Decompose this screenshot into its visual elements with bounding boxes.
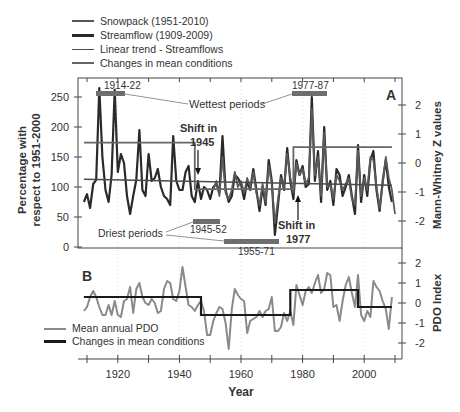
legend-panel-a: Snowpack (1951-2010) Streamflow (1909-20… xyxy=(72,14,233,70)
legend-item-streamflow: Streamflow (1909-2009) xyxy=(72,28,233,42)
y2-axis-title-b: PDO Index xyxy=(431,273,443,332)
shift-1977-label: Shift in xyxy=(278,219,316,231)
shift-1977-year: 1977 xyxy=(286,233,310,245)
wettest-connector xyxy=(262,94,292,104)
streamflow-line xyxy=(84,88,392,235)
y2-tick-label: 0 xyxy=(415,157,421,169)
legend-swatch xyxy=(44,328,66,330)
y-tick-label: 0 xyxy=(63,241,69,253)
y2-tick-label: -2 xyxy=(415,215,425,227)
legend-swatch xyxy=(72,34,94,37)
legend-label: Streamflow (1909-2009) xyxy=(100,28,213,42)
y-axis-title-line1: Percentage with xyxy=(16,126,28,214)
legend-label: Mean annual PDO xyxy=(72,322,158,335)
y-tick-label: 150 xyxy=(51,151,69,163)
y2-tick-label: -1 xyxy=(415,317,425,329)
legend-item-mean-changes: Changes in mean conditions xyxy=(72,56,233,70)
legend-label: Changes in mean conditions xyxy=(72,335,205,348)
y2-axis-title-a: Mann-Whitney Z values xyxy=(431,101,443,229)
driest-periods-label: Driest periods xyxy=(98,227,163,239)
y-tick-label: 50 xyxy=(57,211,69,223)
y2-tick-label: -2 xyxy=(415,337,425,349)
legend-label: Changes in mean conditions xyxy=(100,56,233,70)
legend-label: Snowpack (1951-2010) xyxy=(100,14,209,28)
legend-item-pdo: Mean annual PDO xyxy=(44,322,205,335)
wettest-periods-label: Wettest periods xyxy=(189,98,266,110)
legend-item-snowpack: Snowpack (1951-2010) xyxy=(72,14,233,28)
x-tick-label: 1920 xyxy=(106,368,130,380)
driest-label-1945-52: 1945-52 xyxy=(190,224,227,235)
driest-bar-1955-71 xyxy=(224,239,279,244)
y2-tick-label: 1 xyxy=(415,277,421,289)
x-tick-label: 1980 xyxy=(290,368,314,380)
legend-swatch xyxy=(44,340,66,343)
wettest-label-1914-22: 1914-22 xyxy=(104,80,141,91)
wettest-label-1977-87: 1977-87 xyxy=(292,80,329,91)
legend-swatch xyxy=(72,20,94,22)
arrow-down-icon xyxy=(195,168,201,175)
wettest-bar-1977-87 xyxy=(292,91,327,96)
panel-b-label: B xyxy=(82,268,92,284)
driest-connector xyxy=(166,235,224,241)
grid-lines xyxy=(118,78,364,359)
legend-swatch xyxy=(72,49,94,50)
wettest-bar-1914-22 xyxy=(96,91,125,96)
y2-tick-label: 2 xyxy=(415,99,421,111)
x-tick-label: 1940 xyxy=(167,368,191,380)
wettest-connector xyxy=(125,94,188,104)
y2-tick-label: 2 xyxy=(415,257,421,269)
snowpack-line xyxy=(213,109,395,223)
panel-a-series xyxy=(84,88,395,235)
legend-item-pdo-mean-changes: Changes in mean conditions xyxy=(44,335,205,348)
driest-label-1955-71: 1955-71 xyxy=(238,246,275,257)
x-tick-label: 1960 xyxy=(229,368,253,380)
x-axis-title: Year xyxy=(228,385,254,399)
x-tick-label: 2000 xyxy=(352,368,376,380)
y-tick-label: 200 xyxy=(51,121,69,133)
legend-panel-b: Mean annual PDO Changes in mean conditio… xyxy=(44,322,205,348)
panel-a-label: A xyxy=(386,87,396,103)
arrow-up-icon xyxy=(295,195,301,202)
shift-1945-year: 1945 xyxy=(190,136,214,148)
y2-tick-label: -1 xyxy=(415,186,425,198)
shift-1945-label: Shift in xyxy=(180,122,218,134)
y-axis-title-line2: respect to 1951-2000 xyxy=(30,113,42,226)
y-tick-label: 250 xyxy=(51,91,69,103)
legend-item-linear-trend: Linear trend - Streamflows xyxy=(72,42,233,56)
y2-tick-label: 0 xyxy=(415,297,421,309)
y-tick-label: 100 xyxy=(51,181,69,193)
y2-tick-label: 1 xyxy=(415,128,421,140)
legend-swatch xyxy=(72,62,94,64)
legend-label: Linear trend - Streamflows xyxy=(100,42,223,56)
